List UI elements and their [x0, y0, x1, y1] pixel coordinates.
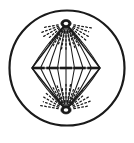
centriole-core: [64, 108, 69, 111]
mitosis-diagram-svg: [0, 0, 134, 143]
centriole-core: [64, 22, 69, 25]
mitosis-figure: [0, 0, 134, 143]
